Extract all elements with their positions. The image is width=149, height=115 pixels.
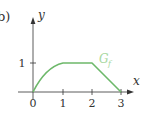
series-label-gf: G f <box>99 52 113 68</box>
series-label-sub: f <box>107 59 113 68</box>
x-axis-label: x <box>133 74 140 88</box>
function-graph: b) x y 0 1 2 3 1 G f <box>0 0 149 115</box>
x-tick-label-3: 3 <box>118 97 125 110</box>
x-tick-label-2: 2 <box>89 97 96 110</box>
y-tick-label-1: 1 <box>19 57 26 70</box>
panel-label: b) <box>0 9 10 24</box>
y-axis-label: y <box>37 8 45 22</box>
x-tick-label-1: 1 <box>60 97 67 110</box>
x-tick-label-0: 0 <box>30 97 37 110</box>
x-axis: x <box>18 74 140 94</box>
y-axis: y <box>31 8 45 100</box>
x-axis-arrow-icon <box>127 90 134 95</box>
y-axis-arrow-icon <box>31 17 36 24</box>
